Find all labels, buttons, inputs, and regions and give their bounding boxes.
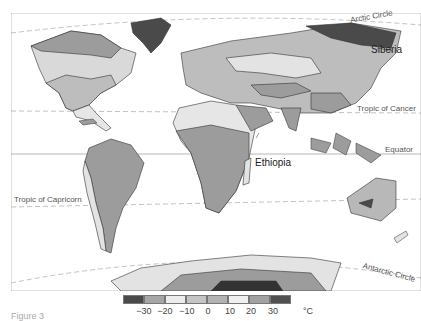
figure-caption: Figure 3 bbox=[11, 311, 44, 321]
legend-tick: 10 bbox=[225, 306, 235, 316]
legend-swatch-below-minus30 bbox=[123, 295, 144, 304]
legend-unit: °C bbox=[303, 306, 313, 316]
legend-swatch-minus30-minus20 bbox=[144, 295, 165, 304]
legend-swatch-20-30 bbox=[249, 295, 270, 304]
legend-swatch-above-30 bbox=[270, 295, 291, 304]
legend-ticks: −30 −20 −10 0 10 20 30 °C bbox=[0, 306, 421, 318]
world-temperature-map bbox=[11, 13, 421, 291]
legend-tick: 0 bbox=[205, 306, 210, 316]
siberia-label: Siberia bbox=[371, 44, 402, 55]
legend-tick: 20 bbox=[246, 306, 256, 316]
equator-label: Equator bbox=[385, 145, 413, 154]
legend-tick: −30 bbox=[136, 306, 151, 316]
legend-swatch-minus20-minus10 bbox=[165, 295, 186, 304]
tropic-of-cancer-label: Tropic of Cancer bbox=[357, 104, 416, 113]
legend-swatch-minus10-0 bbox=[186, 295, 207, 304]
legend-swatch-10-20 bbox=[228, 295, 249, 304]
legend-swatch-0-10 bbox=[207, 295, 228, 304]
tropic-of-capricorn-label: Tropic of Capricorn bbox=[14, 195, 82, 204]
legend-tick: −10 bbox=[179, 306, 194, 316]
legend-tick: −20 bbox=[157, 306, 172, 316]
legend-tick: 30 bbox=[268, 306, 278, 316]
temperature-legend bbox=[123, 295, 291, 304]
ethiopia-label: Ethiopia bbox=[255, 157, 291, 168]
